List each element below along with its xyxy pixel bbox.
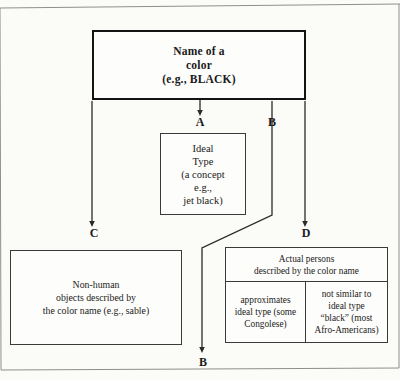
node-nonhuman-line-1: Non-human	[73, 278, 120, 291]
persons-header-line-1: Actual persons	[279, 253, 335, 265]
node-ideal-line-4: e.g.,	[194, 181, 212, 194]
persons-right-line-4: Afro-Americans)	[314, 324, 378, 336]
node-nonhuman-line-2: objects described by	[56, 291, 136, 304]
persons-right-line-1: not similar to	[322, 288, 372, 300]
node-actual-persons: Actual persons described by the color na…	[225, 247, 388, 343]
persons-left-line-3: Congolese)	[244, 318, 286, 330]
node-name-of-a-color: Name of a color (e.g., BLACK)	[92, 30, 306, 100]
node-nonhuman-line-3: the color name (e.g., sable)	[43, 304, 149, 317]
node-ideal-line-1: Ideal	[193, 142, 214, 155]
persons-right-line-3: “black” (most	[321, 312, 373, 324]
persons-header-line-2: described by the color name	[254, 265, 359, 277]
node-ideal-line-2: Type	[193, 155, 214, 168]
persons-right-line-2: ideal type	[328, 300, 364, 312]
edge-label-d: D	[296, 227, 316, 239]
node-root-line-3: (e.g., BLACK)	[162, 72, 236, 86]
node-root-line-2: color	[186, 58, 212, 72]
cell-not-similar-to-ideal-type: not similar to ideal type “black” (most …	[306, 282, 387, 342]
node-non-human-objects: Non-human objects described by the color…	[10, 250, 182, 345]
cell-approximates-ideal-type: approximates ideal type (some Congolese)	[226, 282, 306, 342]
persons-left-line-1: approximates	[240, 294, 290, 306]
color-name-concept-diagram: Name of a color (e.g., BLACK) Ideal Type…	[0, 0, 400, 380]
edge-label-b-bottom: B	[193, 356, 213, 368]
node-root-line-1: Name of a	[173, 44, 225, 58]
edge-label-a: A	[190, 116, 210, 128]
node-ideal-line-5: jet black)	[183, 194, 222, 207]
edge-label-b-top: B	[262, 116, 282, 128]
actual-persons-cells: approximates ideal type (some Congolese)…	[226, 282, 387, 342]
edge-label-c: C	[84, 227, 104, 239]
actual-persons-header: Actual persons described by the color na…	[226, 248, 387, 282]
persons-left-line-2: ideal type (some	[235, 306, 296, 318]
node-ideal-line-3: (a concept	[181, 168, 224, 181]
node-ideal-type: Ideal Type (a concept e.g., jet black)	[160, 133, 246, 215]
